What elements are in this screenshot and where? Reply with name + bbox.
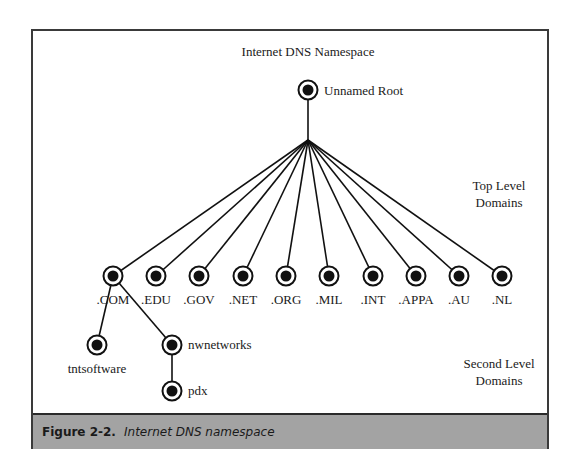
tld-label-appa: .APPA xyxy=(398,292,434,307)
edge-tntsoftware xyxy=(97,276,113,345)
tld-label-org: .ORG xyxy=(271,292,302,307)
tld-node-au-icon xyxy=(450,267,469,286)
top-level-domains-label-line2: Domains xyxy=(476,195,523,210)
tld-node-mil-icon xyxy=(320,267,339,286)
tld-label-mil: .MIL xyxy=(315,292,342,307)
node-labels: Unnamed Root.COM.EDU.GOV.NET.ORG.MIL.INT… xyxy=(68,83,513,398)
sld-label-nwnetworks: nwnetworks xyxy=(188,337,252,352)
subdomain-node-pdx-icon xyxy=(163,382,182,401)
figure-caption: Figure 2-2. Internet DNS namespace xyxy=(33,413,547,449)
tld-label-au: .AU xyxy=(448,292,471,307)
tld-label-net: .NET xyxy=(229,292,258,307)
figure-caption-text: Internet DNS namespace xyxy=(124,425,275,439)
tld-node-org-icon xyxy=(277,267,296,286)
figure-frame: Internet DNS Namespace Unnamed Root.COM.… xyxy=(31,29,549,449)
tld-node-nl-icon xyxy=(493,267,512,286)
tree-edges xyxy=(97,90,502,391)
edge-appa xyxy=(308,140,416,276)
root-node-icon xyxy=(299,81,318,100)
edge-org xyxy=(286,140,308,276)
tld-node-edu-icon xyxy=(147,267,166,286)
second-level-domains-label-line2: Domains xyxy=(476,373,523,388)
edge-nl xyxy=(308,140,502,276)
diagram-title: Internet DNS Namespace xyxy=(242,44,375,59)
sld-label-tntsoftware: tntsoftware xyxy=(68,361,127,376)
tld-label-com: .COM xyxy=(97,292,130,307)
sld-node-nwnetworks-icon xyxy=(163,336,182,355)
tld-node-int-icon xyxy=(364,267,383,286)
diagram-canvas: Internet DNS Namespace Unnamed Root.COM.… xyxy=(2,2,576,469)
tld-node-com-icon xyxy=(104,267,123,286)
tld-label-edu: .EDU xyxy=(141,292,172,307)
tld-node-appa-icon xyxy=(407,267,426,286)
subdomain-label-pdx: pdx xyxy=(188,383,208,398)
sld-node-tntsoftware-icon xyxy=(88,336,107,355)
second-level-domains-label-line1: Second Level xyxy=(463,356,535,371)
figure-number: Figure 2-2. xyxy=(42,425,124,439)
tld-node-gov-icon xyxy=(190,267,209,286)
dns-namespace-diagram: Internet DNS Namespace Unnamed Root.COM.… xyxy=(33,31,547,413)
tld-label-gov: .GOV xyxy=(183,292,215,307)
tree-nodes xyxy=(88,81,512,401)
edge-nwnetworks xyxy=(113,276,172,345)
root-label: Unnamed Root xyxy=(324,83,403,98)
edge-com xyxy=(113,140,308,276)
top-level-domains-label-line1: Top Level xyxy=(473,178,526,193)
edge-au xyxy=(308,140,459,276)
tld-label-int: .INT xyxy=(361,292,386,307)
tld-label-nl: .NL xyxy=(492,292,513,307)
edge-edu xyxy=(156,140,308,276)
tld-node-net-icon xyxy=(234,267,253,286)
